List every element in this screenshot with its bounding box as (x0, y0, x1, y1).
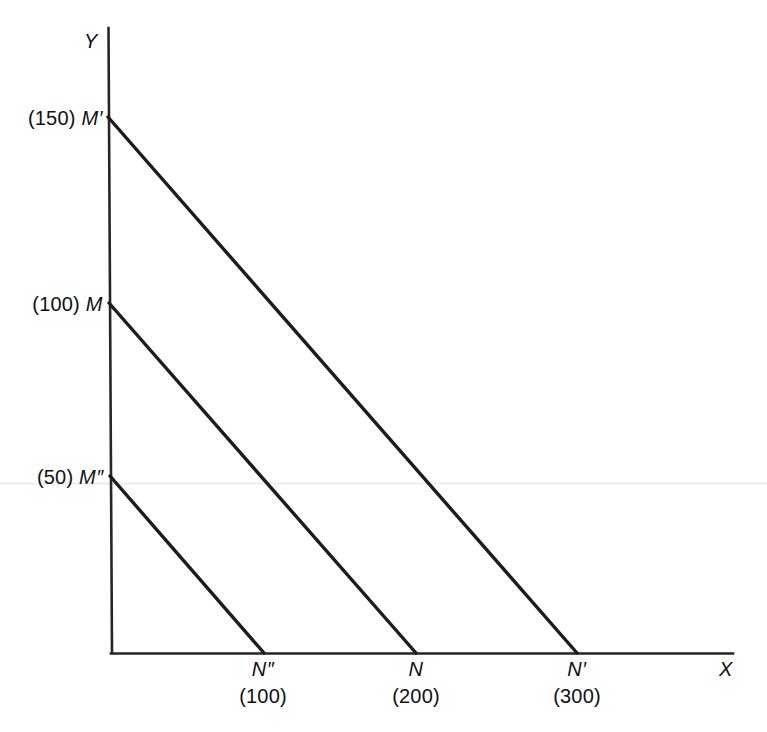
x-tick-300-value: (300) (553, 686, 601, 706)
budget-line-m-prime-n-prime (108, 117, 577, 653)
y-tick-100-symbol: M (86, 293, 103, 315)
x-tick-200-symbol: N (408, 659, 423, 679)
y-tick-100-value: (100) (32, 293, 80, 315)
x-tick-200-value: (200) (392, 686, 440, 706)
y-tick-50-value: (50) (37, 466, 73, 488)
budget-line-m-n (109, 303, 416, 653)
y-tick-100: (100) M (32, 294, 103, 314)
x-tick-300-symbol: N′ (567, 659, 586, 679)
chart-canvas (0, 0, 767, 732)
x-axis-label: X (719, 659, 733, 679)
y-tick-50: (50) M″ (37, 467, 104, 487)
budget-line-chart: Y X (150) M′ (100) M (50) M″ N″ (100) N … (0, 0, 767, 732)
y-axis-label: Y (84, 31, 98, 51)
x-tick-100-symbol: N″ (252, 659, 275, 679)
x-tick-100-value: (100) (239, 686, 287, 706)
y-tick-50-symbol: M″ (79, 466, 104, 488)
budget-line-m-double-prime-n-double-prime (110, 476, 264, 653)
y-tick-150-value: (150) (28, 107, 76, 129)
y-tick-150: (150) M′ (28, 108, 103, 128)
y-tick-150-symbol: M′ (81, 107, 103, 129)
